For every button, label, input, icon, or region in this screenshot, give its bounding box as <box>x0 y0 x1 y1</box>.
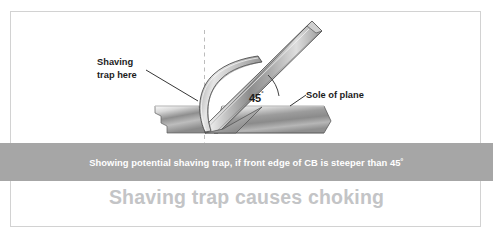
workpiece-block-icon <box>155 106 206 133</box>
figure-title-caption: Shaving trap causes choking <box>0 186 493 209</box>
annotation-shaving-trap-line2: trap here <box>97 69 137 82</box>
figure-page: Shaving trap here Sole of plane 45˚ Show… <box>0 0 493 238</box>
annotation-shaving-trap-line1: Shaving <box>97 56 137 69</box>
degree-symbol-icon: ˚ <box>261 90 264 99</box>
leader-line-shaving-trap-icon <box>146 70 198 101</box>
leader-line-sole-icon <box>290 95 306 106</box>
annotation-shaving-trap: Shaving trap here <box>97 56 137 81</box>
plane-blade-diagram <box>0 0 493 150</box>
annotation-angle-value: 45 <box>249 92 261 104</box>
annotation-angle-45: 45˚ <box>249 89 264 104</box>
annotation-sole-of-plane: Sole of plane <box>306 89 364 102</box>
banner-strip: Showing potential shaving trap, if front… <box>0 143 493 181</box>
banner-caption: Showing potential shaving trap, if front… <box>0 143 493 181</box>
